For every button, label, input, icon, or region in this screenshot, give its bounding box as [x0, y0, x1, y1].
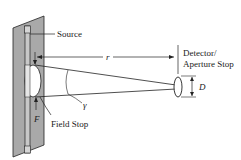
gamma-arc [66, 70, 68, 94]
r-arrow-right [169, 55, 174, 59]
cone-bottom-ray [35, 89, 176, 97]
detector-label-line2: Aperture Stop [183, 59, 234, 69]
d-label: D [198, 82, 206, 92]
source-label: Source [57, 29, 82, 39]
detector-label-line1: Detector/ [183, 48, 217, 58]
gamma-label: γ [83, 100, 87, 110]
detector-aperture [174, 77, 182, 97]
field-stop-label: Field Stop [51, 119, 89, 129]
gamma-leader [68, 94, 82, 103]
cone-top-ray [35, 65, 176, 85]
d-arrow-bottom [190, 92, 194, 96]
f-label: F [33, 114, 40, 124]
lamp-cap-bottom [25, 146, 31, 153]
d-arrow-top [190, 77, 194, 81]
lamp-inside-opening [25, 65, 30, 97]
lamp-cap-top [25, 26, 31, 33]
optical-diagram: Source r F Field Stop γ Detector/ Apertu… [0, 0, 241, 160]
r-label: r [106, 52, 110, 62]
